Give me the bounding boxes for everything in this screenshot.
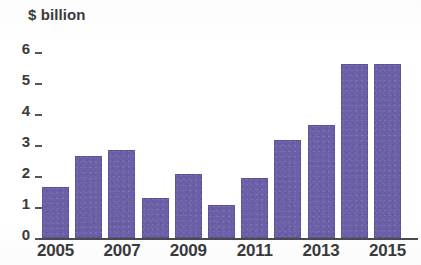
x-axis-tick-label: 2011 [237, 241, 273, 261]
bar [108, 150, 135, 238]
x-axis-tick-label: 2009 [170, 241, 207, 261]
bar-chart: $ billion 0123456 2005200720092011201320… [0, 0, 421, 265]
bar [274, 140, 301, 238]
x-axis-tick-label: 2007 [103, 241, 140, 261]
bar [341, 64, 368, 238]
bar [42, 187, 69, 238]
x-axis-tick-label: 2013 [303, 241, 340, 261]
bar [374, 64, 401, 238]
bar [142, 198, 169, 238]
bar [308, 125, 335, 238]
x-axis-tick-labels: 200520072009201120132015 [0, 241, 421, 265]
x-axis-tick-label: 2015 [369, 241, 406, 261]
bar [75, 156, 102, 238]
plot-area: 0123456 200520072009201120132015 [0, 0, 421, 265]
bar [175, 174, 202, 238]
bar-series [0, 0, 421, 265]
x-axis-tick-label: 2005 [37, 241, 74, 261]
bar [208, 205, 235, 238]
x-axis-line [39, 238, 418, 240]
bar [241, 178, 268, 238]
